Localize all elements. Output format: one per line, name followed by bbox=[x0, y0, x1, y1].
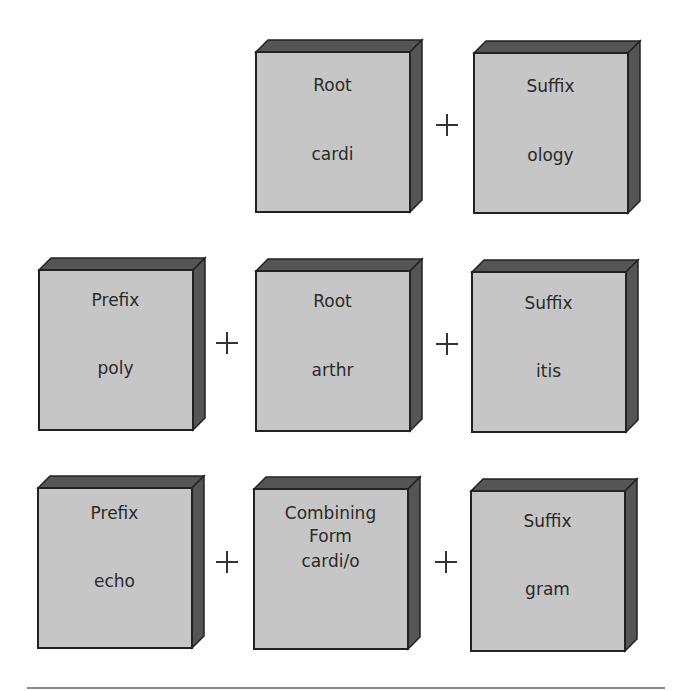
block-prefix-poly: Prefix poly bbox=[39, 258, 205, 430]
block-type-label: Prefix bbox=[38, 503, 191, 523]
block-value-label: ology bbox=[474, 145, 627, 165]
block-suffix-ology: Suffix ology bbox=[474, 41, 640, 213]
block-value-label: poly bbox=[39, 358, 192, 378]
block-root-arthr: Root arthr bbox=[256, 259, 422, 431]
block-type-label-line1: Combining bbox=[254, 503, 407, 523]
block-type-label: Suffix bbox=[472, 293, 625, 313]
block-value-label: echo bbox=[38, 571, 191, 591]
plus-icon bbox=[212, 547, 242, 577]
block-combining-form-cardio: Combining Form cardi/o bbox=[254, 477, 420, 649]
bottom-divider bbox=[27, 687, 665, 689]
cube-shape bbox=[256, 40, 422, 212]
block-type-label: Root bbox=[256, 291, 409, 311]
block-type-label-line2: Form bbox=[254, 526, 407, 546]
cube-shape bbox=[472, 260, 638, 432]
block-suffix-itis: Suffix itis bbox=[472, 260, 638, 432]
block-type-label: Root bbox=[256, 75, 409, 95]
plus-icon bbox=[431, 547, 461, 577]
block-type-label: Suffix bbox=[471, 511, 624, 531]
block-value-label: gram bbox=[471, 579, 624, 599]
block-value-label: itis bbox=[472, 361, 625, 381]
plus-icon bbox=[432, 110, 462, 140]
cube-shape bbox=[471, 479, 637, 651]
block-suffix-gram: Suffix gram bbox=[471, 479, 637, 651]
cube-shape bbox=[256, 259, 422, 431]
block-value-label: cardi/o bbox=[254, 551, 407, 571]
block-root-cardi: Root cardi bbox=[256, 40, 422, 212]
cube-shape bbox=[38, 476, 204, 648]
cube-shape bbox=[39, 258, 205, 430]
block-prefix-echo: Prefix echo bbox=[38, 476, 204, 648]
cube-shape bbox=[474, 41, 640, 213]
plus-icon bbox=[432, 329, 462, 359]
block-value-label: cardi bbox=[256, 144, 409, 164]
block-value-label: arthr bbox=[256, 360, 409, 380]
block-type-label: Suffix bbox=[474, 76, 627, 96]
plus-icon bbox=[212, 328, 242, 358]
block-type-label: Prefix bbox=[39, 290, 192, 310]
